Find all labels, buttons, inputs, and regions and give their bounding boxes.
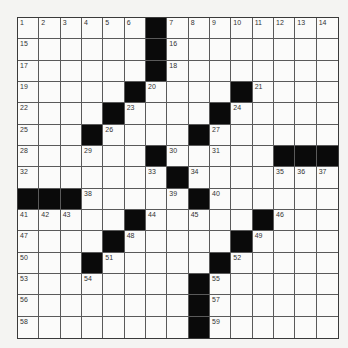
grid-cell[interactable]: [253, 274, 274, 295]
grid-cell[interactable]: [317, 103, 338, 124]
grid-cell[interactable]: [103, 146, 124, 167]
grid-cell[interactable]: [61, 317, 82, 338]
grid-cell[interactable]: [317, 82, 338, 103]
grid-cell[interactable]: [295, 210, 316, 231]
grid-cell[interactable]: [103, 295, 124, 316]
grid-cell[interactable]: [317, 231, 338, 252]
grid-cell[interactable]: [231, 210, 252, 231]
grid-cell[interactable]: [231, 274, 252, 295]
grid-cell[interactable]: [39, 103, 60, 124]
grid-cell[interactable]: [231, 146, 252, 167]
grid-cell[interactable]: [61, 82, 82, 103]
grid-cell[interactable]: 58: [18, 317, 39, 338]
grid-cell[interactable]: 49: [253, 231, 274, 252]
grid-cell[interactable]: [146, 103, 167, 124]
grid-cell[interactable]: [295, 125, 316, 146]
grid-cell[interactable]: 57: [210, 295, 231, 316]
grid-cell[interactable]: [39, 82, 60, 103]
grid-cell[interactable]: 45: [189, 210, 210, 231]
grid-cell[interactable]: 16: [167, 39, 188, 60]
grid-cell[interactable]: 2: [39, 18, 60, 39]
grid-cell[interactable]: [189, 146, 210, 167]
grid-cell[interactable]: [61, 39, 82, 60]
grid-cell[interactable]: [231, 295, 252, 316]
grid-cell[interactable]: [274, 231, 295, 252]
grid-cell[interactable]: [103, 189, 124, 210]
grid-cell[interactable]: 21: [253, 82, 274, 103]
grid-cell[interactable]: [231, 125, 252, 146]
grid-cell[interactable]: 41: [18, 210, 39, 231]
grid-cell[interactable]: [125, 167, 146, 188]
grid-cell[interactable]: 19: [18, 82, 39, 103]
grid-cell[interactable]: [125, 295, 146, 316]
grid-cell[interactable]: 43: [61, 210, 82, 231]
grid-cell[interactable]: 33: [146, 167, 167, 188]
grid-cell[interactable]: 8: [189, 18, 210, 39]
grid-cell[interactable]: 31: [210, 146, 231, 167]
grid-cell[interactable]: [317, 274, 338, 295]
grid-cell[interactable]: 6: [125, 18, 146, 39]
grid-cell[interactable]: [146, 295, 167, 316]
grid-cell[interactable]: [61, 103, 82, 124]
grid-cell[interactable]: 35: [274, 167, 295, 188]
grid-cell[interactable]: [295, 82, 316, 103]
grid-cell[interactable]: [231, 189, 252, 210]
grid-cell[interactable]: [61, 295, 82, 316]
grid-cell[interactable]: [146, 189, 167, 210]
grid-cell[interactable]: [317, 189, 338, 210]
grid-cell[interactable]: [295, 231, 316, 252]
grid-cell[interactable]: [274, 317, 295, 338]
grid-cell[interactable]: [61, 231, 82, 252]
grid-cell[interactable]: [125, 274, 146, 295]
grid-cell[interactable]: 14: [317, 18, 338, 39]
grid-cell[interactable]: [61, 146, 82, 167]
grid-cell[interactable]: [146, 253, 167, 274]
grid-cell[interactable]: [317, 125, 338, 146]
grid-cell[interactable]: [39, 295, 60, 316]
grid-cell[interactable]: [253, 103, 274, 124]
grid-cell[interactable]: [295, 295, 316, 316]
grid-cell[interactable]: [146, 274, 167, 295]
grid-cell[interactable]: 24: [231, 103, 252, 124]
grid-cell[interactable]: 1: [18, 18, 39, 39]
grid-cell[interactable]: 5: [103, 18, 124, 39]
grid-cell[interactable]: [146, 125, 167, 146]
grid-cell[interactable]: [146, 317, 167, 338]
grid-cell[interactable]: [61, 274, 82, 295]
grid-cell[interactable]: 39: [167, 189, 188, 210]
grid-cell[interactable]: [274, 295, 295, 316]
grid-cell[interactable]: [82, 295, 103, 316]
grid-cell[interactable]: [39, 39, 60, 60]
grid-cell[interactable]: [189, 103, 210, 124]
grid-cell[interactable]: [82, 317, 103, 338]
grid-cell[interactable]: 12: [274, 18, 295, 39]
grid-cell[interactable]: [167, 82, 188, 103]
grid-cell[interactable]: [189, 231, 210, 252]
grid-cell[interactable]: [167, 103, 188, 124]
grid-cell[interactable]: [167, 210, 188, 231]
grid-cell[interactable]: 15: [18, 39, 39, 60]
grid-cell[interactable]: [103, 167, 124, 188]
grid-cell[interactable]: [274, 189, 295, 210]
grid-cell[interactable]: 47: [18, 231, 39, 252]
grid-cell[interactable]: [39, 167, 60, 188]
grid-cell[interactable]: [167, 295, 188, 316]
grid-cell[interactable]: [167, 253, 188, 274]
grid-cell[interactable]: 4: [82, 18, 103, 39]
grid-cell[interactable]: [82, 39, 103, 60]
grid-cell[interactable]: [125, 317, 146, 338]
grid-cell[interactable]: 32: [18, 167, 39, 188]
grid-cell[interactable]: [253, 189, 274, 210]
grid-cell[interactable]: 22: [18, 103, 39, 124]
grid-cell[interactable]: [189, 39, 210, 60]
grid-cell[interactable]: [210, 61, 231, 82]
grid-cell[interactable]: [295, 189, 316, 210]
grid-cell[interactable]: 18: [167, 61, 188, 82]
grid-cell[interactable]: [189, 82, 210, 103]
grid-cell[interactable]: [167, 274, 188, 295]
grid-cell[interactable]: [39, 125, 60, 146]
grid-cell[interactable]: [39, 317, 60, 338]
grid-cell[interactable]: [253, 146, 274, 167]
grid-cell[interactable]: 25: [18, 125, 39, 146]
grid-cell[interactable]: [231, 39, 252, 60]
